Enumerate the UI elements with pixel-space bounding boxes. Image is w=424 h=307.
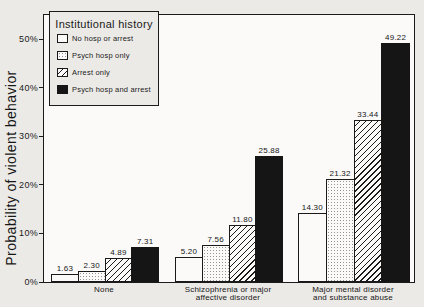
bar-value-label: 5.20	[181, 247, 197, 256]
y-tick-mark	[39, 282, 44, 283]
legend-title: Institutional history	[50, 18, 158, 30]
legend-items: No hosp or arrestPsych hosp onlyArrest o…	[50, 33, 158, 94]
x-category-label: None	[94, 286, 114, 294]
y-tick-mark	[39, 184, 44, 185]
y-tick-label: 30%	[19, 131, 38, 141]
legend-item: Arrest only	[57, 67, 158, 77]
legend: Institutional history No hosp or arrestP…	[49, 11, 159, 106]
legend-item-label: No hosp or arrest	[72, 34, 133, 43]
bar-value-label: 4.89	[110, 248, 126, 257]
legend-swatch-dots	[57, 51, 68, 60]
y-tick-label: 40%	[19, 83, 38, 93]
y-tick-mark	[39, 233, 44, 234]
bar-plain: 5.20	[175, 257, 203, 282]
bar-solid-black: 49.22	[381, 43, 410, 282]
bar-diagonal-hatch: 33.44	[354, 120, 383, 282]
bar-diagonal-hatch: 11.80	[229, 225, 257, 282]
legend-item: Psych hosp and arrest	[57, 84, 158, 94]
y-tick-mark	[39, 39, 44, 40]
y-tick-label: 50%	[19, 34, 38, 44]
bar-value-label: 21.32	[330, 169, 351, 178]
bar-value-label: 7.56	[207, 235, 223, 244]
bar-value-label: 25.88	[259, 146, 280, 155]
bar-value-label: 33.44	[357, 110, 378, 119]
bar-plain: 14.30	[298, 213, 327, 282]
bar-diagonal-hatch: 4.89	[105, 258, 133, 282]
bar-value-label: 7.31	[137, 237, 153, 246]
bar-solid-black: 7.31	[131, 247, 159, 283]
bar-value-label: 1.63	[57, 264, 73, 273]
bar-plain: 1.63	[51, 274, 79, 282]
bar-group: 1.632.304.897.31	[51, 247, 159, 283]
violent-behavior-bar-chart: Probability of violent behavior Institut…	[0, 0, 424, 307]
bar-dots: 7.56	[202, 245, 230, 282]
legend-item-label: Arrest only	[72, 68, 110, 77]
legend-swatch-diagonal-hatch	[57, 68, 68, 77]
legend-swatch-solid-black	[57, 85, 68, 94]
y-tick-mark	[39, 87, 44, 88]
y-tick-label: 20%	[19, 180, 38, 190]
legend-item: Psych hosp only	[57, 50, 158, 60]
x-category-label: Schizophrenia or majoraffective disorder	[185, 286, 272, 301]
bar-value-label: 2.30	[83, 261, 99, 270]
bar-dots: 21.32	[326, 179, 355, 283]
x-category-label: Major mental disorderand substance abuse	[312, 286, 394, 301]
legend-item-label: Psych hosp and arrest	[72, 85, 151, 94]
y-tick-label: 0%	[24, 277, 38, 287]
bar-dots: 2.30	[78, 271, 106, 282]
bar-group: 14.3021.3233.4449.22	[298, 43, 410, 282]
bar-solid-black: 25.88	[255, 156, 283, 282]
y-tick-mark	[39, 136, 44, 137]
y-tick-label: 10%	[19, 228, 38, 238]
legend-item: No hosp or arrest	[57, 33, 158, 43]
y-axis-title: Probability of violent behavior	[3, 70, 19, 265]
bar-group: 5.207.5611.8025.88	[175, 156, 283, 282]
plot-area: Institutional history No hosp or arrestP…	[43, 14, 415, 283]
bar-value-label: 14.30	[302, 203, 323, 212]
bar-value-label: 11.80	[232, 215, 252, 224]
bar-value-label: 49.22	[385, 33, 406, 42]
legend-item-label: Psych hosp only	[72, 51, 130, 60]
legend-swatch-plain	[57, 34, 68, 43]
